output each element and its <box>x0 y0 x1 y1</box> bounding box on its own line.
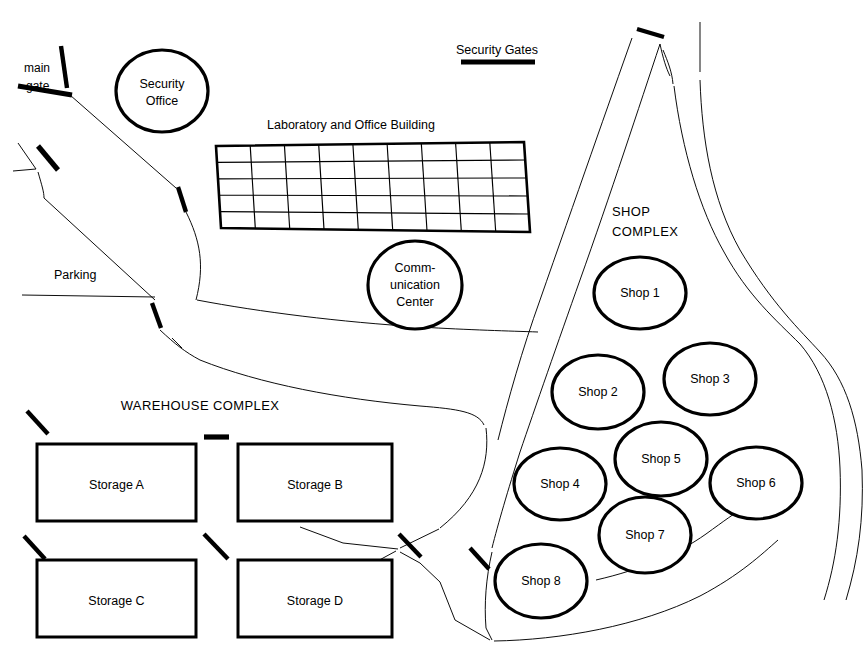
gate-warehouse-west <box>24 536 45 559</box>
road-fork-left <box>660 44 670 76</box>
warehouse-complex-label: WAREHOUSE COMPLEX <box>121 398 280 413</box>
shop-complex-label-line1: SHOP <box>612 204 650 219</box>
shop-5[interactable]: Shop 5 <box>615 422 707 496</box>
laboratory-outline <box>216 142 530 232</box>
road-warehouse-north-spur <box>172 338 182 348</box>
storage-b-label: Storage B <box>287 478 343 492</box>
shop-complex-group: Shop 1 Shop 2 Shop 3 Shop 4 Shop 5 Shop … <box>495 257 802 618</box>
shop-complex-label-line2: COMPLEX <box>612 224 678 239</box>
main-gate-label-line1: main <box>24 61 50 75</box>
road-main-drive-lower <box>186 212 201 300</box>
security-office-building[interactable]: Security Office <box>116 50 208 132</box>
storage-d[interactable]: Storage D <box>238 560 392 637</box>
road-lab-south <box>197 300 538 332</box>
site-map-canvas: Security Office Comm- unication Center S… <box>0 0 867 668</box>
gate-warehouse-northwest <box>27 411 48 434</box>
shop-7[interactable]: Shop 7 <box>599 497 691 573</box>
laboratory-office-building[interactable] <box>216 142 530 232</box>
laboratory-building-label: Laboratory and Office Building <box>267 118 435 132</box>
gate-parking-southeast <box>152 303 161 328</box>
gate-north-east <box>637 29 664 37</box>
communication-center-building[interactable]: Comm- unication Center <box>368 241 462 329</box>
storage-c-label: Storage C <box>88 594 144 608</box>
shop-3[interactable]: Shop 3 <box>664 343 756 415</box>
storage-a-label: Storage A <box>89 478 145 492</box>
shop-8-label: Shop 8 <box>521 574 561 588</box>
shop-2[interactable]: Shop 2 <box>552 355 644 429</box>
communication-center-label-line2: unication <box>390 278 440 292</box>
storage-a[interactable]: Storage A <box>37 444 196 521</box>
storage-d-label: Storage D <box>287 594 343 608</box>
security-gates-label: Security Gates <box>456 43 538 57</box>
storage-b[interactable]: Storage B <box>238 444 392 521</box>
security-office-label-line1: Security <box>139 77 185 91</box>
shop-5-label: Shop 5 <box>641 452 681 466</box>
gate-main-gate-post <box>61 46 67 88</box>
shop-8[interactable]: Shop 8 <box>495 544 587 618</box>
road-warehouse-east-leg <box>440 428 487 528</box>
shop-6-label: Shop 6 <box>736 476 776 490</box>
site-map: Security Office Comm- unication Center S… <box>0 0 867 668</box>
security-office-label-line2: Office <box>146 94 178 108</box>
shop-3-label: Shop 3 <box>690 372 730 386</box>
gate-warehouse-center <box>204 534 228 559</box>
shop-2-label: Shop 2 <box>578 385 618 399</box>
gate-west-upper <box>38 146 58 170</box>
main-gate-label-line2: gate <box>26 79 50 93</box>
laboratory-row-3 <box>219 195 528 196</box>
shop-1[interactable]: Shop 1 <box>594 257 686 329</box>
gate-shop-southwest <box>470 548 489 569</box>
storage-c[interactable]: Storage C <box>37 560 196 637</box>
shop-4[interactable]: Shop 4 <box>514 448 606 520</box>
communication-center-label-line1: Comm- <box>395 261 436 275</box>
communication-center-label-line3: Center <box>396 295 434 309</box>
laboratory-row-2 <box>218 178 526 179</box>
shop-4-label: Shop 4 <box>540 477 580 491</box>
parking-label: Parking <box>54 268 96 282</box>
road-parking-edge <box>22 295 155 297</box>
shop-1-label: Shop 1 <box>620 286 660 300</box>
road-west-hook <box>13 143 36 171</box>
road-east-outer-lower <box>700 80 862 600</box>
road-storage-junction-se <box>400 552 490 640</box>
road-fork-right <box>663 50 673 84</box>
shop-6[interactable]: Shop 6 <box>710 447 802 519</box>
warehouse-complex-group: Storage A Storage B Storage C Storage D <box>37 444 392 637</box>
shop-7-label: Shop 7 <box>625 528 665 542</box>
gate-lab-west <box>178 187 186 212</box>
road-storage-junction-w <box>300 527 398 549</box>
